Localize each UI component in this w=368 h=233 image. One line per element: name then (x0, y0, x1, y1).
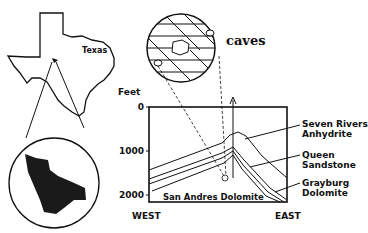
axis-title: Feet (118, 87, 140, 97)
caves-label: caves (226, 33, 265, 48)
y-tick-2000: 2000 (104, 190, 144, 200)
region-shape (25, 154, 86, 214)
san-andres-label: San Andres Dolomite (163, 192, 264, 202)
layer-line2: Dolomite (302, 188, 349, 198)
east-label: EAST (275, 211, 301, 221)
texas-map-outline (8, 13, 114, 116)
layer-line1: Queen (302, 150, 356, 160)
y-tick-1000: 1000 (104, 146, 144, 156)
cave-void (172, 40, 189, 55)
layer-line1: Grayburg (302, 178, 349, 188)
layer-label-queen: Queen Sandstone (302, 150, 356, 170)
location-marker (52, 58, 58, 63)
texas-label: Texas (82, 46, 107, 56)
layer-label-seven-rivers: Seven Rivers Anhydrite (302, 119, 368, 139)
layer-line2: Anhydrite (302, 129, 368, 139)
y-tick-0: 0 (104, 102, 144, 112)
layer-line2: Sandstone (302, 160, 356, 170)
west-label: WEST (132, 211, 161, 221)
layer-label-grayburg: Grayburg Dolomite (302, 178, 349, 198)
layer-line1: Seven Rivers (302, 119, 368, 129)
